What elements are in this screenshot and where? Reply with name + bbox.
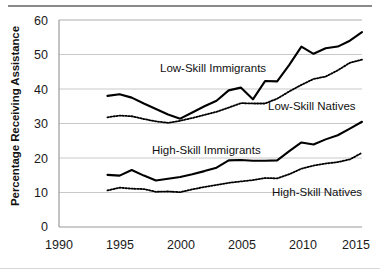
- chart-plot-area: [0, 0, 380, 271]
- series-label-high-skill-immigrants: High-Skill Immigrants: [152, 144, 261, 156]
- chart-figure: Percentage Receiving Assistance 60 50 40…: [0, 0, 380, 271]
- series-label-low-skill-immigrants: Low-Skill Immigrants: [160, 62, 266, 74]
- series-label-low-skill-natives: Low-Skill Natives: [268, 100, 356, 112]
- series-lines: [107, 32, 362, 192]
- footer-divider: [0, 268, 380, 269]
- series-label-high-skill-natives: High-Skill Natives: [272, 186, 362, 198]
